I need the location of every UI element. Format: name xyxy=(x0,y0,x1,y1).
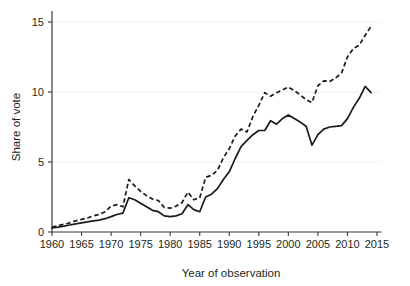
x-axis-tick-label: 2015 xyxy=(365,238,389,250)
x-axis-tick-label: 2005 xyxy=(306,238,330,250)
x-axis-tick-label: 1965 xyxy=(69,238,93,250)
y-axis-tick-label: 5 xyxy=(38,156,44,168)
x-axis-tick-label: 1980 xyxy=(158,238,182,250)
line-chart: 051015 196019651970197519801985199019952… xyxy=(0,0,410,286)
x-axis-tick-label: 1995 xyxy=(247,238,271,250)
dashed-series-line xyxy=(52,26,371,227)
x-axis-tick-label: 2000 xyxy=(276,238,300,250)
gridlines-group xyxy=(52,22,381,162)
x-axis-tick-label: 1970 xyxy=(99,238,123,250)
y-axis-tick-label: 0 xyxy=(38,226,44,238)
chart-container: 051015 196019651970197519801985199019952… xyxy=(0,0,410,286)
x-axis-tick-label: 1990 xyxy=(217,238,241,250)
solid-series-line xyxy=(52,86,371,227)
y-axis-tick-label: 10 xyxy=(32,86,44,98)
x-axis-tick-label: 2010 xyxy=(335,238,359,250)
y-axis-ticks-group: 051015 xyxy=(32,16,52,238)
y-axis-tick-label: 15 xyxy=(32,16,44,28)
y-axis-title: Share of vote xyxy=(10,93,22,161)
x-axis-tick-label: 1960 xyxy=(40,238,64,250)
x-axis-ticks-group: 1960196519701975198019851990199520002005… xyxy=(40,232,389,250)
x-axis-tick-label: 1975 xyxy=(128,238,152,250)
x-axis-tick-label: 1985 xyxy=(187,238,211,250)
x-axis-title: Year of observation xyxy=(182,267,281,279)
